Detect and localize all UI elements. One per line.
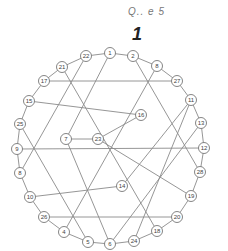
graph-node: 5 <box>83 237 94 248</box>
node-label: 27 <box>174 78 181 84</box>
graph-node: 4 <box>59 227 70 238</box>
graph-node: 11 <box>186 95 197 106</box>
node-label: 13 <box>198 120 205 126</box>
node-label: 10 <box>27 194 34 200</box>
graph-node: 22 <box>81 51 92 62</box>
graph-node: 2 <box>128 51 139 62</box>
graph-node: 24 <box>129 236 140 247</box>
node-label: 19 <box>188 193 195 199</box>
node-label: 18 <box>154 228 161 234</box>
chord-edge <box>134 100 191 241</box>
node-label: 17 <box>41 78 48 84</box>
node-label: 14 <box>119 183 126 189</box>
chord-edge <box>122 100 191 186</box>
chord-edge <box>66 53 110 139</box>
chord-edge <box>17 148 204 149</box>
graph-node: 8 <box>152 61 163 72</box>
node-label: 24 <box>131 238 138 244</box>
graph-node: 27 <box>172 76 183 87</box>
node-label: 11 <box>188 97 195 103</box>
node-label: 22 <box>83 53 90 59</box>
graph-node: 15 <box>24 96 35 107</box>
graph-node: 17 <box>39 76 50 87</box>
graph-node: 16 <box>136 110 147 121</box>
graph-node: 6 <box>105 239 116 250</box>
graph-node: 9 <box>12 144 23 155</box>
graph-node: 1 <box>105 48 116 59</box>
chord-edge <box>98 115 141 139</box>
node-label: 25 <box>17 121 24 127</box>
graph-node: 23 <box>93 134 104 145</box>
node-label: 20 <box>174 214 181 220</box>
graph-node: 13 <box>196 118 207 129</box>
graph-node: 12 <box>199 143 210 154</box>
graph-node: 8 <box>15 168 26 179</box>
node-label: 23 <box>95 136 102 142</box>
graph-node: 28 <box>195 167 206 178</box>
node-label: 26 <box>41 214 48 220</box>
graph-node: 19 <box>186 191 197 202</box>
circular-graph: 1282711131228192018246542610892515172122… <box>0 0 228 251</box>
graph-node: 25 <box>15 119 26 130</box>
node-label: 28 <box>197 169 204 175</box>
node-label: 21 <box>59 64 66 70</box>
graph-node: 26 <box>39 212 50 223</box>
chord-edge <box>29 101 141 115</box>
graph-node: 14 <box>117 181 128 192</box>
graph-node: 21 <box>57 62 68 73</box>
node-label: 15 <box>26 98 33 104</box>
node-label: 16 <box>138 112 145 118</box>
graph-node: 20 <box>172 212 183 223</box>
node-label: 12 <box>201 145 208 151</box>
graph-node: 10 <box>25 192 36 203</box>
graph-node: 7 <box>61 134 72 145</box>
chord-edge <box>30 186 122 197</box>
graph-node: 18 <box>152 226 163 237</box>
